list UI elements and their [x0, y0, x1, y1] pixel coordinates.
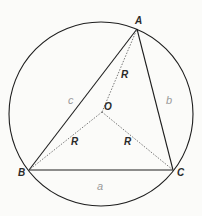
radius-label-oc: R	[124, 136, 132, 147]
side-ab	[29, 29, 137, 170]
radius-oa	[102, 29, 137, 112]
circumcircle	[9, 22, 193, 206]
vertex-label-b: B	[18, 167, 25, 178]
radius-oc	[102, 112, 173, 170]
circumscribed-triangle-diagram: A B C O R R R a b c	[0, 0, 202, 216]
handwritten-mark-a: a	[97, 180, 103, 192]
center-label-o: O	[104, 101, 112, 112]
handwritten-mark-c: c	[68, 94, 74, 106]
radius-ob	[29, 112, 102, 170]
radius-label-oa: R	[121, 69, 129, 80]
handwritten-mark-b: b	[166, 94, 172, 106]
vertex-label-c: C	[177, 167, 185, 178]
radius-label-ob: R	[71, 136, 79, 147]
vertex-label-a: A	[134, 15, 142, 26]
